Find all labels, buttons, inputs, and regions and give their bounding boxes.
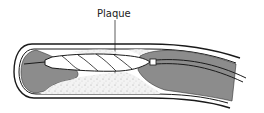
artery-diagram: [0, 0, 264, 113]
catheter-joint: [150, 59, 156, 65]
